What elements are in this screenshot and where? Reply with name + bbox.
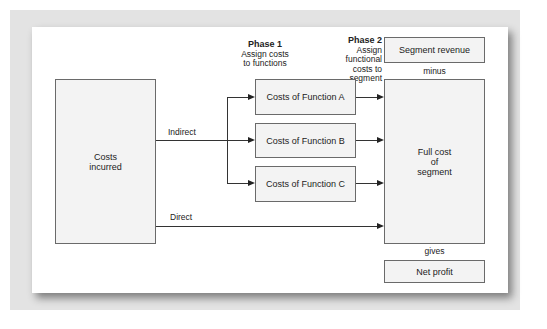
full-cost-box: Full cost of segment <box>384 79 485 244</box>
function-a-label: Costs of Function A <box>266 92 344 102</box>
arrow-to-function-c-icon <box>248 180 255 186</box>
function-a-out-line <box>356 97 377 98</box>
costs-incurred-line1: Costs <box>94 152 117 162</box>
full-cost-line3: segment <box>417 167 452 177</box>
function-c-out-line <box>356 183 377 184</box>
branch-a-line <box>227 97 248 98</box>
segment-revenue-box: Segment revenue <box>384 37 485 63</box>
indirect-line <box>156 140 248 141</box>
function-b-label: Costs of Function B <box>266 136 345 146</box>
arrow-to-function-a-icon <box>248 94 255 100</box>
branch-connector <box>227 97 228 184</box>
minus-label: minus <box>384 67 485 77</box>
branch-c-line <box>227 183 248 184</box>
arrow-b-to-full-cost-icon <box>377 137 384 143</box>
costs-incurred-box: Costs incurred <box>55 79 156 244</box>
function-b-out-line <box>356 140 377 141</box>
phase-2-desc-line1: Assign functional <box>318 46 382 65</box>
function-a-box: Costs of Function A <box>255 79 356 115</box>
arrow-direct-to-full-cost-icon <box>377 223 384 229</box>
arrow-to-function-b-icon <box>248 137 255 143</box>
function-b-box: Costs of Function B <box>255 123 356 158</box>
costs-incurred-line2: incurred <box>89 162 122 172</box>
net-profit-box: Net profit <box>384 260 485 283</box>
full-cost-line2: of <box>431 157 439 167</box>
indirect-label: Indirect <box>168 128 196 138</box>
function-c-label: Costs of Function C <box>266 179 345 189</box>
gives-label: gives <box>384 247 485 257</box>
arrow-c-to-full-cost-icon <box>377 180 384 186</box>
direct-label: Direct <box>170 213 192 223</box>
arrow-a-to-full-cost-icon <box>377 94 384 100</box>
phase-1-label: Phase 1 Assign costs to functions <box>230 40 300 69</box>
function-c-box: Costs of Function C <box>255 166 356 202</box>
phase-2-label: Phase 2 Assign functional costs to segme… <box>318 36 382 84</box>
segment-revenue-label: Segment revenue <box>399 45 470 55</box>
net-profit-label: Net profit <box>416 267 453 277</box>
phase-1-desc-line2: to functions <box>230 59 300 69</box>
direct-line <box>156 226 377 227</box>
full-cost-line1: Full cost <box>418 147 452 157</box>
